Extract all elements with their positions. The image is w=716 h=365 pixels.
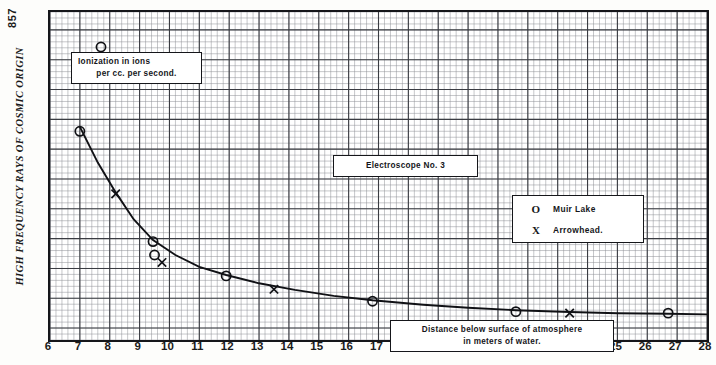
annotation-ionization: Ionization in ions per cc. per second. (71, 52, 202, 84)
x-tick-label: 8 (93, 340, 123, 352)
x-tick-label: 14 (272, 340, 302, 352)
annotation-distance: Distance below surface of atmosphere in … (390, 320, 614, 352)
annotation-distance-line2: in meters of water. (397, 336, 607, 348)
legend-item-muir-lake: O Muir Lake (519, 199, 637, 220)
legend-box: O Muir Lake X Arrowhead. (512, 195, 644, 243)
x-tick-label: 16 (332, 340, 362, 352)
x-tick-label: 10 (152, 340, 182, 352)
x-tick-label: 27 (660, 340, 690, 352)
x-tick-label: 17 (362, 340, 392, 352)
x-tick-label: 26 (630, 340, 660, 352)
x-tick-label: 7 (63, 340, 93, 352)
x-tick-label: 9 (123, 340, 153, 352)
x-tick-label: 15 (302, 340, 332, 352)
annotation-ionization-line1: Ionization in ions (78, 56, 195, 68)
legend-label-arrowhead: Arrowhead. (553, 224, 603, 236)
x-tick-label: 28 (690, 340, 716, 352)
x-tick-label: 6 (33, 340, 63, 352)
x-tick-label: 11 (182, 340, 212, 352)
x-tick-label: 12 (212, 340, 242, 352)
legend-item-arrowhead: X Arrowhead. (519, 220, 637, 241)
legend-circle-icon: O (519, 202, 553, 218)
x-tick-label: 13 (242, 340, 272, 352)
annotation-distance-line1: Distance below surface of atmosphere (397, 324, 607, 336)
legend-label-muir-lake: Muir Lake (553, 203, 596, 215)
sample-circle-icon (94, 40, 108, 54)
y-axis-title: HIGH FREQUENCY RAYS OF COSMIC ORIGIN (14, 56, 25, 286)
annotation-ionization-line2: per cc. per second. (78, 68, 195, 80)
annotation-electroscope: Electroscope No. 3 (333, 155, 478, 177)
legend-cross-icon: X (519, 223, 553, 239)
page-number: 857 (6, 0, 18, 38)
